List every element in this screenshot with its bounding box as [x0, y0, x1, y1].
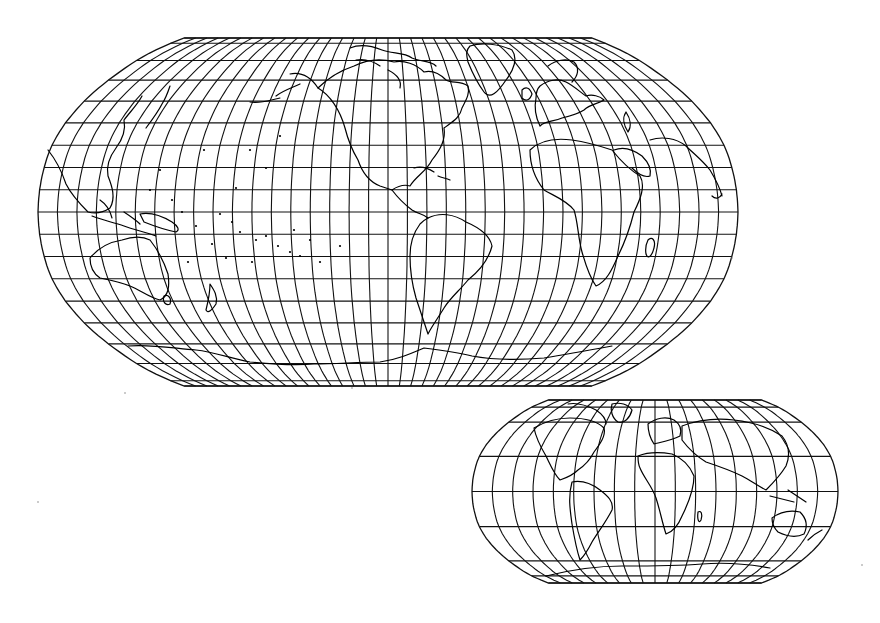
island-dot: [171, 199, 173, 201]
map-figure: [0, 0, 880, 623]
island-dot: [293, 229, 295, 231]
speck: [351, 387, 353, 389]
island-dot: [149, 189, 151, 191]
island-dot: [187, 261, 189, 263]
speck: [124, 392, 126, 394]
island-dot: [249, 149, 251, 151]
world-maps-canvas: [0, 0, 880, 623]
island-dot: [251, 261, 253, 263]
island-dot: [265, 235, 267, 237]
island-dot: [181, 211, 183, 213]
island-dot: [319, 261, 321, 263]
island-dot: [203, 149, 205, 151]
speck: [37, 501, 39, 503]
island-dot: [255, 239, 257, 241]
island-dot: [279, 135, 281, 137]
island-dot: [225, 257, 227, 259]
island-dot: [299, 255, 301, 257]
speck: [731, 257, 733, 259]
island-dot: [277, 245, 279, 247]
island-dot: [289, 251, 291, 253]
island-dot: [195, 225, 197, 227]
island-dot: [239, 231, 241, 233]
speck: [861, 564, 863, 566]
island-dot: [159, 169, 161, 171]
island-dot: [219, 213, 221, 215]
island-dot: [339, 245, 341, 247]
island-dot: [211, 243, 213, 245]
island-dot: [309, 239, 311, 241]
island-dot: [235, 187, 237, 189]
island-dot: [231, 221, 233, 223]
island-dot: [265, 167, 267, 169]
